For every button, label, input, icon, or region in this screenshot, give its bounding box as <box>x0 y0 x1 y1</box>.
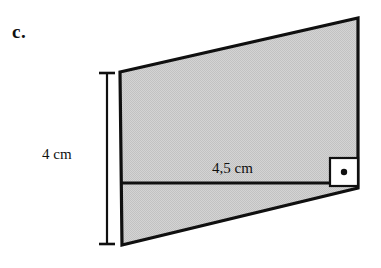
base-measurement-label: 4,5 cm <box>212 160 253 177</box>
right-angle-dot-icon <box>341 169 347 175</box>
height-measurement-label: 4 cm <box>42 146 72 163</box>
item-letter-label: c. <box>12 21 26 43</box>
figure-page: c. 4 cm 4,5 cm <box>0 0 381 268</box>
geometry-figure <box>0 0 381 268</box>
parallelogram-shape <box>120 18 358 245</box>
